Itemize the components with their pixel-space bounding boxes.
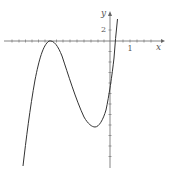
x-axis-label: x xyxy=(156,42,161,52)
x-axis xyxy=(4,39,165,43)
y-tick-label-2: 2 xyxy=(101,25,106,34)
cubic-graph: y 2 x 1 xyxy=(0,0,171,174)
x-tick-label-1: 1 xyxy=(128,44,133,53)
y-axis-label: y xyxy=(100,8,107,18)
